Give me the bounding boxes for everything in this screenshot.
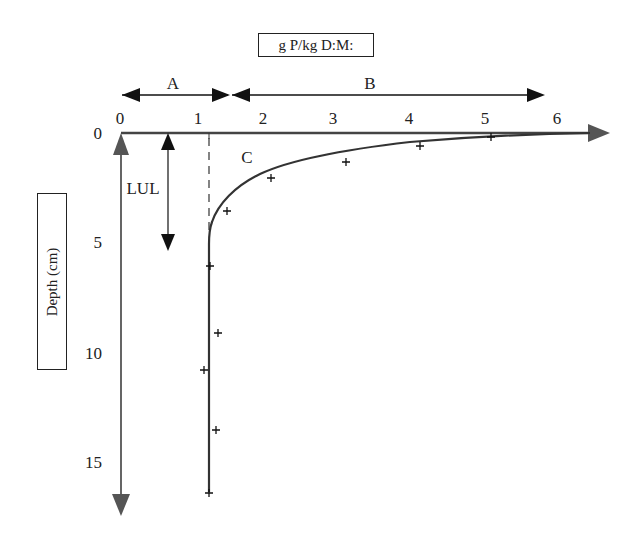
svg-text:0: 0 [94,124,103,143]
label-a: A [167,74,180,93]
y-tick-labels: 0 5 10 15 [85,124,102,472]
svg-text:2: 2 [259,109,268,128]
svg-text:5: 5 [481,109,490,128]
label-b: B [364,74,375,93]
svg-text:15: 15 [85,453,102,472]
svg-text:5: 5 [94,233,103,252]
data-points [200,133,495,497]
lul-arrow [161,133,175,251]
x-tick-labels: 0 1 2 3 4 5 6 [116,109,562,128]
chart-canvas: A B 0 1 2 3 4 5 6 0 5 10 15 LUL C [0,0,635,542]
svg-text:3: 3 [329,109,338,128]
range-arrow-b [232,88,545,102]
svg-text:10: 10 [85,344,102,363]
label-lul: LUL [126,179,159,198]
label-c: C [241,148,252,167]
svg-text:4: 4 [405,109,414,128]
svg-text:1: 1 [194,109,203,128]
svg-text:0: 0 [116,109,125,128]
svg-text:6: 6 [553,109,562,128]
fitted-curve [209,133,590,492]
